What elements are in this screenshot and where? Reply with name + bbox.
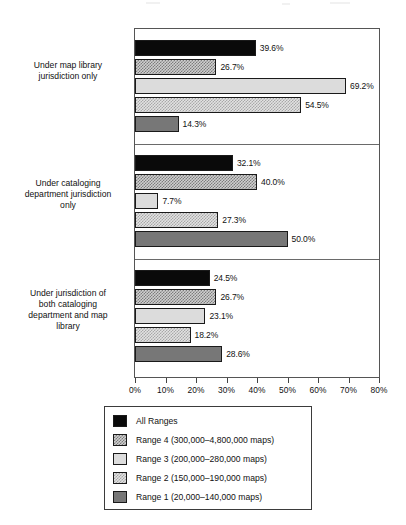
bar [135,231,288,247]
bar-row: 27.3% [135,212,379,228]
bar-value-label: 26.7% [220,62,244,72]
scan-artifact [282,3,290,5]
bar-value-label: 54.5% [305,100,329,110]
bar-row: 26.7% [135,289,379,305]
bar-value-label: 23.1% [209,311,233,321]
legend-item: Range 4 (300,000–4,800,000 maps) [113,432,274,447]
chart-legend: All RangesRange 4 (300,000–4,800,000 map… [104,406,312,510]
legend-label: All Ranges [136,416,178,426]
category-label: Under catalogingdepartment jurisdictiono… [6,178,130,211]
bar-value-label: 7.7% [162,196,181,206]
x-axis-tick-label: 70% [340,385,357,395]
legend-swatch [113,472,127,484]
bar [135,155,233,171]
category-label: Under jurisdiction ofboth catalogingdepa… [6,288,130,332]
bar [135,289,216,305]
bar-row: 26.7% [135,59,379,75]
bar [135,327,191,343]
legend-item: Range 3 (200,000–280,000 maps) [113,451,267,466]
category-label-line: Under cataloging [6,178,130,189]
x-axis-tick-label: 20% [188,385,205,395]
bar-value-label: 39.6% [260,43,284,53]
bar-group: 24.5%26.7%23.1%18.2%28.6% [135,259,379,374]
bar [135,97,301,113]
scan-artifact [146,2,160,4]
category-label-line: Under map library [6,60,130,71]
bar-group: 39.6%26.7%69.2%54.5%14.3% [135,29,379,144]
x-axis-tick [257,378,258,383]
legend-swatch [113,453,127,465]
bar [135,270,210,286]
bar-row: 69.2% [135,78,379,94]
legend-item: All Ranges [113,413,178,428]
x-axis-tick [135,378,136,383]
bar-row: 24.5% [135,270,379,286]
bar-value-label: 40.0% [261,177,285,187]
x-axis: 0%10%20%30%40%50%60%70%80% [134,378,380,404]
bar-row: 50.0% [135,231,379,247]
bar [135,212,218,228]
bar-row: 23.1% [135,308,379,324]
group-separator [135,144,379,145]
legend-swatch [113,491,127,503]
bar-value-label: 32.1% [237,158,261,168]
x-axis-tick [288,378,289,383]
bar-value-label: 50.0% [292,234,316,244]
category-label-line: jurisdiction only [6,71,130,82]
bar-row: 14.3% [135,116,379,132]
bar-value-label: 26.7% [220,292,244,302]
x-axis-tick [318,378,319,383]
bar-row: 32.1% [135,155,379,171]
bar-row: 7.7% [135,193,379,209]
x-axis-tick-label: 10% [157,385,174,395]
category-label-line: department and map [6,310,130,321]
bar-value-label: 28.6% [226,349,250,359]
category-label-line: Under jurisdiction of [6,288,130,299]
legend-label: Range 2 (150,000–190,000 maps) [136,473,267,483]
category-label-line: library [6,321,130,332]
legend-swatch [113,434,127,446]
bar-value-label: 14.3% [183,119,207,129]
horizontal-bar-chart: Under map libraryjurisdiction onlyUnder … [0,0,406,525]
category-label-line: both cataloging [6,299,130,310]
x-axis-tick-label: 60% [310,385,327,395]
bar [135,174,257,190]
bar-row: 54.5% [135,97,379,113]
x-axis-tick-label: 80% [371,385,388,395]
legend-item: Range 2 (150,000–190,000 maps) [113,470,267,485]
bar [135,193,158,209]
bar-value-label: 18.2% [195,330,219,340]
bar [135,78,346,94]
bar [135,116,179,132]
bar [135,40,256,56]
x-axis-tick [379,378,380,383]
bar-group: 32.1%40.0%7.7%27.3%50.0% [135,144,379,259]
bar-row: 40.0% [135,174,379,190]
bar-value-label: 27.3% [222,215,246,225]
x-axis-tick [166,378,167,383]
bar-value-label: 69.2% [350,81,374,91]
x-axis-tick-label: 30% [218,385,235,395]
legend-item: Range 1 (20,000–140,000 maps) [113,489,262,504]
x-axis-tick [196,378,197,383]
x-axis-tick-label: 40% [249,385,266,395]
bar [135,308,205,324]
x-axis-tick-label: 0% [129,385,141,395]
bar-row: 18.2% [135,327,379,343]
legend-label: Range 3 (200,000–280,000 maps) [136,454,267,464]
category-label-line: only [6,200,130,211]
bar [135,59,216,75]
category-label-line: department jurisdiction [6,189,130,200]
plot-area: 39.6%26.7%69.2%54.5%14.3%32.1%40.0%7.7%2… [134,28,380,378]
bar-value-label: 24.5% [214,273,238,283]
bar-row: 39.6% [135,40,379,56]
group-separator [135,259,379,260]
legend-label: Range 4 (300,000–4,800,000 maps) [136,435,274,445]
x-axis-tick [227,378,228,383]
legend-label: Range 1 (20,000–140,000 maps) [136,492,262,502]
bar-row: 28.6% [135,346,379,362]
x-axis-tick [349,378,350,383]
bar [135,346,222,362]
legend-swatch [113,415,127,427]
scan-artifact [330,2,350,4]
